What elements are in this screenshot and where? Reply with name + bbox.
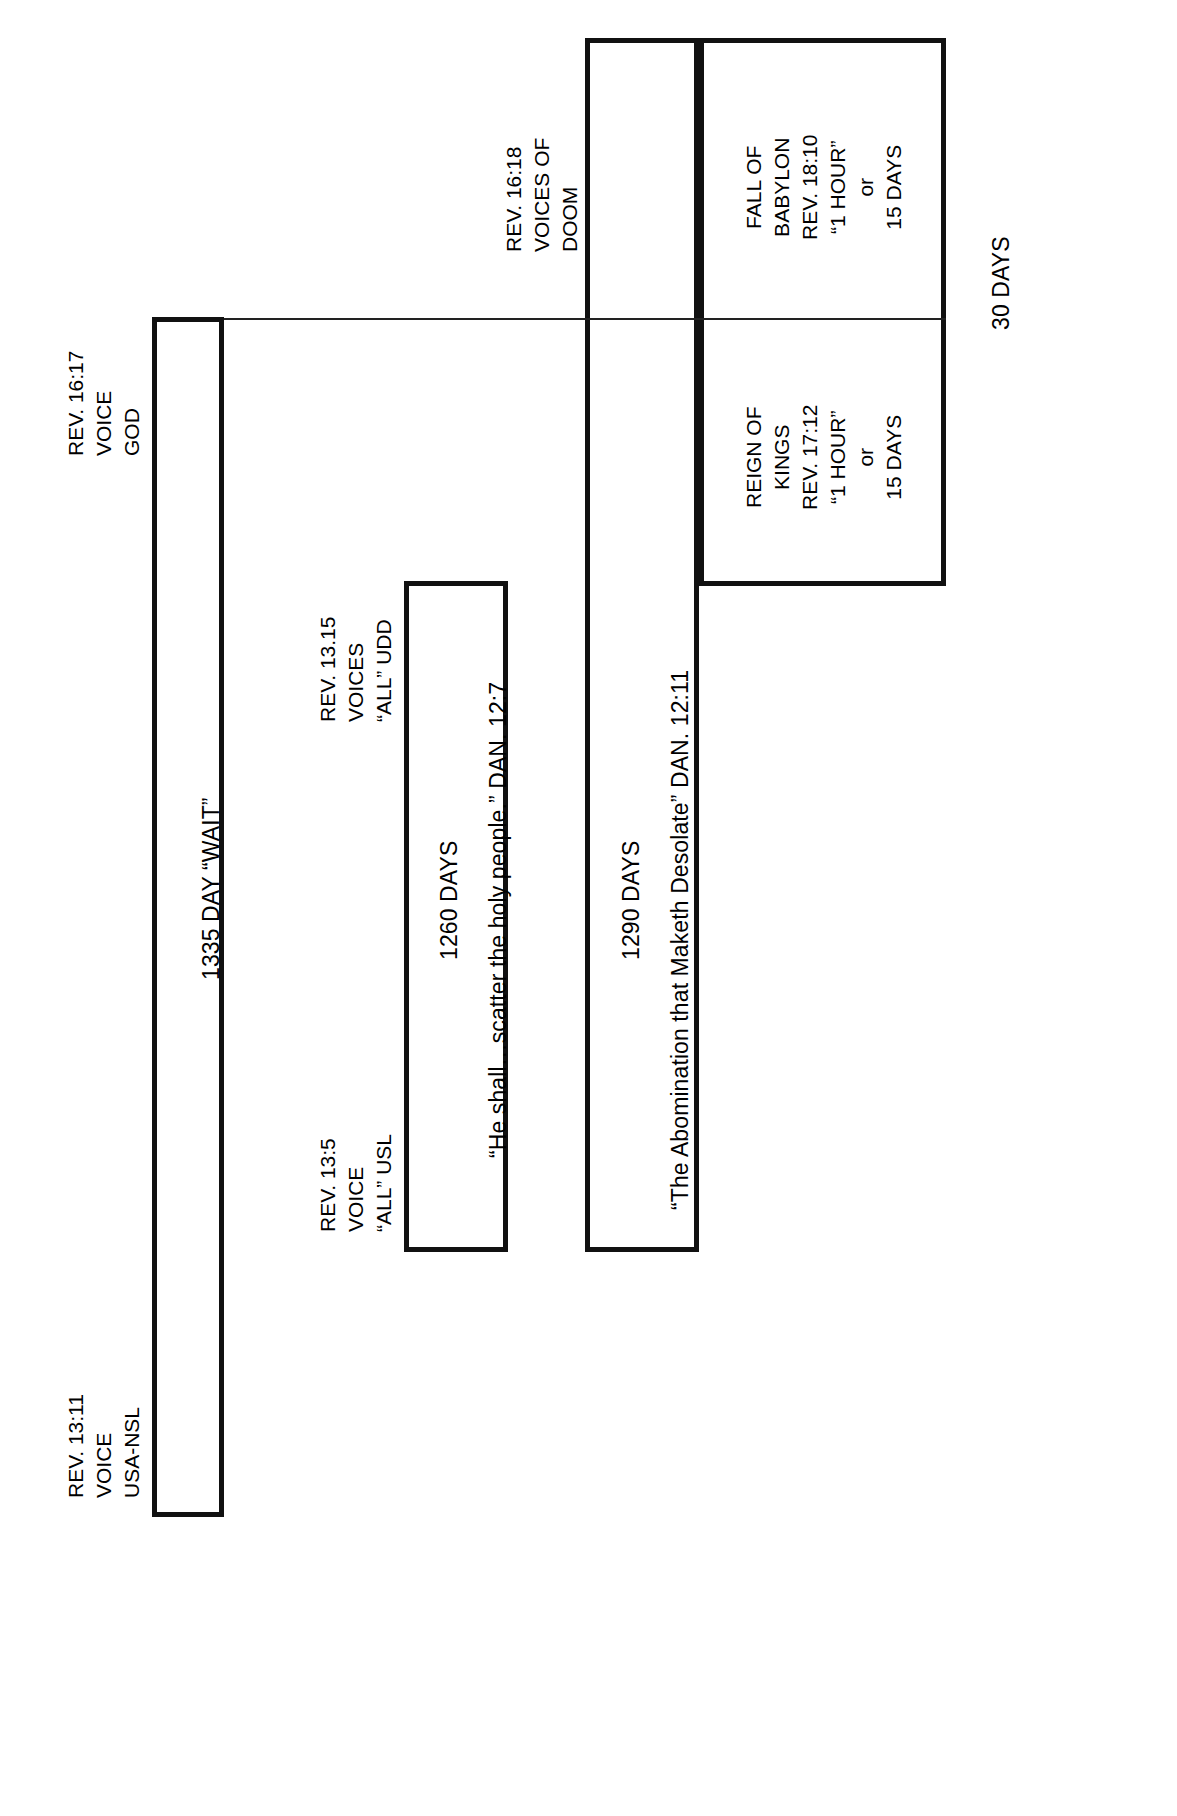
bar-1290-count: 1290 DAYS — [616, 841, 646, 960]
marker-usa-nsl: REV. 13:11 VOICE USA-NSL — [62, 1394, 146, 1498]
reign-of-kings-line2: KINGS — [768, 405, 796, 510]
divider-30-day-split — [224, 318, 946, 320]
marker-voice-god-actor: GOD — [118, 351, 146, 456]
marker-voices-doom: REV. 16:18 VOICES OF DOOM — [500, 138, 584, 252]
fall-of-babylon-line2: BABYLON — [768, 135, 796, 240]
fall-of-babylon-line1: FALL OF — [740, 135, 768, 240]
panel-fall-of-babylon: FALL OF BABYLON REV. 18:10 “1 HOUR” or 1… — [740, 135, 908, 240]
marker-all-udd-ref: REV. 13.15 — [314, 617, 342, 722]
bar-1260-count: 1260 DAYS — [434, 841, 464, 960]
bar-1290-quote: “The Abomination that Maketh Desolate” D… — [665, 670, 695, 1210]
reign-of-kings-line5: or — [852, 405, 880, 510]
fall-of-babylon-line6: 15 DAYS — [880, 135, 908, 240]
bar-1260-quote: “He shall…scatter the holy people.” DAN.… — [483, 682, 513, 1158]
marker-all-usl-ref: REV. 13:5 — [314, 1134, 342, 1232]
label-30-days: 30 DAYS — [986, 236, 1016, 330]
marker-voices-doom-word: VOICES OF — [528, 138, 556, 252]
marker-all-usl: REV. 13:5 VOICE “ALL” USL — [314, 1134, 398, 1232]
marker-usa-nsl-ref: REV. 13:11 — [62, 1394, 90, 1498]
marker-all-usl-word: VOICE — [342, 1134, 370, 1232]
marker-voice-god-ref: REV. 16:17 — [62, 351, 90, 456]
marker-all-udd-word: VOICES — [342, 617, 370, 722]
reign-of-kings-line1: REIGN OF — [740, 405, 768, 510]
marker-voice-god-word: VOICE — [90, 351, 118, 456]
fall-of-babylon-line3: REV. 18:10 — [796, 135, 824, 240]
panel-reign-of-kings: REIGN OF KINGS REV. 17:12 “1 HOUR” or 15… — [740, 405, 908, 510]
marker-all-udd: REV. 13.15 VOICES “ALL” UDD — [314, 617, 398, 722]
reign-of-kings-line3: REV. 17:12 — [796, 405, 824, 510]
reign-of-kings-line6: 15 DAYS — [880, 405, 908, 510]
marker-usa-nsl-word: VOICE — [90, 1394, 118, 1498]
marker-voices-doom-ref: REV. 16:18 — [500, 138, 528, 252]
fall-of-babylon-line4: “1 HOUR” — [824, 135, 852, 240]
marker-all-udd-actor: “ALL” UDD — [370, 617, 398, 722]
marker-voices-doom-actor: DOOM — [556, 138, 584, 252]
prophetic-timeline-diagram: 1335 DAY “WAIT” 1260 DAYS “He shall…scat… — [0, 0, 1177, 1816]
marker-all-usl-actor: “ALL” USL — [370, 1134, 398, 1232]
bar-1335-label: 1335 DAY “WAIT” — [196, 797, 226, 980]
marker-usa-nsl-actor: USA-NSL — [118, 1394, 146, 1498]
marker-voice-god: REV. 16:17 VOICE GOD — [62, 351, 146, 456]
fall-of-babylon-line5: or — [852, 135, 880, 240]
reign-of-kings-line4: “1 HOUR” — [824, 405, 852, 510]
